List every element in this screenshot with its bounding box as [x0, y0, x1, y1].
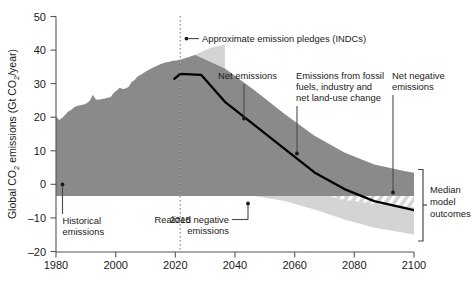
y-tick-label-30: 30 — [34, 78, 46, 90]
y-tick-label-0: 0 — [40, 178, 46, 190]
y-tick-label-20: 20 — [34, 111, 46, 123]
y-tick-label-neg20: –20 — [28, 246, 46, 258]
net-negative-annotation-line2: emissions — [392, 81, 434, 92]
historical-annotation-line1: Historical — [63, 215, 102, 226]
historical-anchor-dot — [61, 183, 65, 187]
median-annotation-line3: outcomes — [430, 208, 471, 219]
x-tick-label-2080: 2080 — [342, 259, 366, 271]
y-tick-label-10: 10 — [34, 145, 46, 157]
y-tick-label-50: 50 — [34, 11, 46, 23]
median-annotation-line1: Median — [430, 184, 461, 195]
fossil-fuels-annotation-line3: net land-use change — [296, 92, 381, 103]
net-negative-annotation-line1: Net negative — [392, 70, 445, 81]
annotation-indc-pledges: Approximate emission pledges (INDCs) — [185, 33, 367, 44]
fossil-fuels-anchor-dot — [295, 152, 299, 156]
historical-annotation-line2: emissions — [63, 226, 105, 237]
net-emissions-annotation-label: Net emissions — [218, 70, 277, 81]
fossil-fuels-annotation-line1: Emissions from fossil — [296, 70, 384, 81]
realized-anchor-dot — [246, 202, 250, 206]
net-emissions-anchor-dot — [242, 117, 246, 121]
median-annotation-line2: model — [430, 196, 456, 207]
indc-annotation-label: Approximate emission pledges (INDCs) — [202, 33, 366, 44]
x-tick-label-2000: 2000 — [103, 259, 127, 271]
chart-figure: 50 40 30 20 10 0 –10 –20 1980 2000 2020 … — [0, 0, 475, 288]
x-tick-label-1980: 1980 — [44, 259, 68, 271]
y-tick-label-40: 40 — [34, 44, 46, 56]
x-tick-label-2060: 2060 — [282, 259, 306, 271]
x-tick-label-2040: 2040 — [223, 259, 247, 271]
emissions-chart-svg: 50 40 30 20 10 0 –10 –20 1980 2000 2020 … — [0, 0, 475, 288]
realized-annotation-line2: emissions — [187, 225, 229, 236]
x-tick-label-2100: 2100 — [402, 259, 426, 271]
indc-anchor-dot — [185, 37, 189, 41]
x-tick-label-2020: 2020 — [163, 259, 187, 271]
y-tick-label-neg10: –10 — [28, 212, 46, 224]
fossil-fuels-annotation-line2: fuels, industry and — [296, 81, 372, 92]
realized-annotation-line1: Realized negative — [154, 214, 229, 225]
net-negative-anchor-dot — [391, 191, 395, 195]
